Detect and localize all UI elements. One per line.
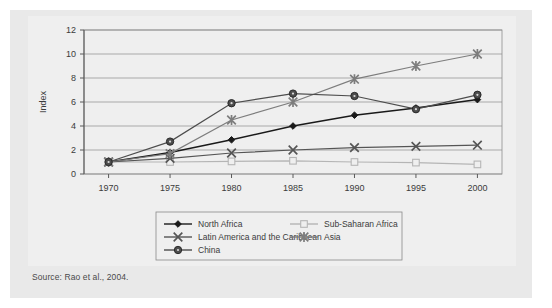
marker-diamond [228, 137, 235, 144]
marker-square [228, 158, 235, 165]
marker-square [413, 159, 420, 166]
figure-panel: 024681012 1970197519801985199019952000 I… [10, 10, 532, 298]
x-tick-label: 2000 [467, 183, 487, 193]
line-chart: 024681012 1970197519801985199019952000 I… [28, 16, 516, 266]
marker-circle-center [107, 161, 109, 163]
marker-diamond [351, 112, 358, 119]
y-tick-label: 6 [71, 97, 76, 107]
marker-circle-center [169, 141, 171, 143]
legend-label: Asia [324, 232, 341, 242]
y-tick-label: 4 [71, 121, 76, 131]
x-tick-label: 1975 [160, 183, 180, 193]
y-tick-label: 2 [71, 145, 76, 155]
y-axis-ticks: 024681012 [66, 25, 84, 179]
source-note: Source: Rao et al., 2004. [32, 272, 129, 282]
x-tick-label: 1990 [344, 183, 364, 193]
x-tick-label: 1980 [222, 183, 242, 193]
chart-legend: North AfricaSub-Saharan AfricaLatin Amer… [156, 212, 402, 260]
marker-star [227, 115, 236, 125]
legend-label: China [198, 245, 220, 255]
x-tick-label: 1970 [99, 183, 119, 193]
marker-square [351, 159, 358, 166]
y-tick-label: 0 [71, 169, 76, 179]
marker-square [474, 161, 481, 168]
y-tick-label: 10 [66, 49, 76, 59]
legend-label: Sub-Saharan Africa [324, 219, 398, 229]
marker-circle-center [415, 108, 417, 110]
marker-square [290, 158, 297, 165]
marker-circle-center [476, 94, 478, 96]
marker-star [350, 74, 359, 84]
cropped-figure-title [12, 0, 512, 8]
chart-card: 024681012 1970197519801985199019952000 I… [28, 16, 516, 266]
y-axis-title-text: Index [38, 90, 48, 113]
marker-circle-center [230, 102, 232, 104]
marker-circle-center [292, 93, 294, 95]
y-tick-label: 8 [71, 73, 76, 83]
legend-label: North Africa [198, 219, 243, 229]
marker-diamond [290, 123, 297, 130]
marker-circle-center [353, 95, 355, 97]
legend-item-sub-saharan-africa[interactable]: Sub-Saharan Africa [290, 219, 398, 229]
marker-square [301, 221, 308, 228]
y-tick-label: 12 [66, 25, 76, 35]
x-tick-label: 1985 [283, 183, 303, 193]
marker-circle-center [177, 249, 179, 251]
y-axis-title: Index [38, 90, 48, 113]
chart-figure-page: 024681012 1970197519801985199019952000 I… [0, 0, 552, 308]
x-axis-ticks: 1970197519801985199019952000 [99, 174, 488, 193]
series-line [109, 100, 478, 162]
x-tick-label: 1995 [406, 183, 426, 193]
